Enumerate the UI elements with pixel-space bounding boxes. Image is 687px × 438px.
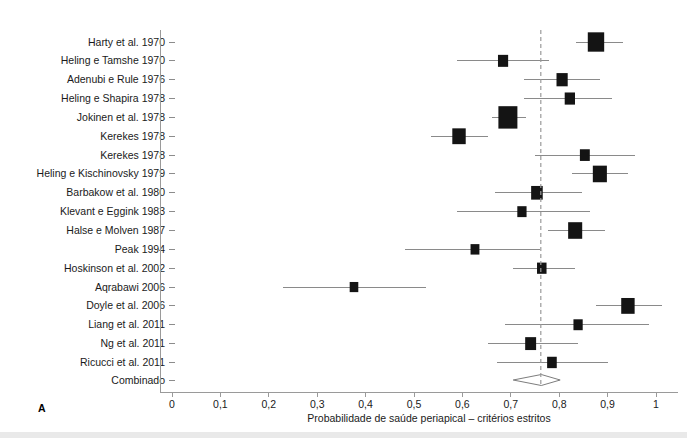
x-axis-tick-label: 0 (169, 398, 175, 410)
study-label: Klevant e Eggink 1983 (60, 205, 165, 217)
effect-estimate-marker (573, 319, 582, 330)
x-axis-tick-label: 0,4 (358, 398, 373, 410)
x-axis-tick-label: 0,6 (455, 398, 470, 410)
x-axis-title: Probabilidade de saúde periapical – crit… (307, 412, 550, 424)
study-label: Hoskinson et al. 2002 (64, 262, 165, 274)
study-label: Doyle et al. 2006 (86, 299, 165, 311)
forest-row: Peak 1994 (115, 243, 540, 255)
forest-row: Heling e Tamshe 1970 (61, 54, 549, 66)
study-label: Jokinen et al. 1978 (77, 111, 165, 123)
forest-row: Kerekes 1978 (100, 128, 488, 144)
effect-estimate-marker (452, 128, 465, 144)
x-axis-tick-label: 0,1 (213, 398, 228, 410)
effect-estimate-marker (568, 222, 582, 239)
effect-estimate-marker (350, 282, 359, 292)
study-label: Adenubi e Rule 1976 (67, 73, 165, 85)
forest-row: Ricucci et al. 2011 (80, 356, 608, 368)
forest-row: Doyle et al. 2006 (86, 298, 662, 314)
summary-row-group: Combinado (111, 374, 560, 386)
effect-estimate-marker (588, 32, 604, 51)
forest-row: Adenubi e Rule 1976 (67, 73, 600, 86)
x-axis-tick-label: 0,2 (261, 398, 276, 410)
study-rows-group: Harty et al. 1970Heling e Tamshe 1970Ade… (37, 32, 662, 368)
effect-estimate-marker (471, 244, 480, 254)
forest-row: Klevant e Eggink 1983 (60, 205, 590, 217)
study-label: Heling e Shapira 1978 (61, 92, 165, 104)
study-label: Kerekes 1978 (100, 149, 165, 161)
effect-estimate-marker (557, 73, 568, 86)
study-label: Heling e Tamshe 1970 (61, 54, 165, 66)
forest-plot-figure: Harty et al. 1970Heling e Tamshe 1970Ade… (0, 0, 687, 438)
effect-estimate-marker (593, 166, 607, 183)
forest-plot-canvas: Harty et al. 1970Heling e Tamshe 1970Ade… (0, 0, 687, 438)
bottom-divider (0, 432, 687, 438)
forest-row: Halse e Molven 1987 (66, 222, 605, 239)
effect-estimate-marker (547, 357, 557, 368)
forest-row: Heling e Shapira 1978 (61, 92, 612, 105)
forest-row: Harty et al. 1970 (88, 32, 623, 51)
study-label: Liang et al. 2011 (88, 318, 165, 330)
study-label: Ricucci et al. 2011 (80, 356, 165, 368)
forest-row: Liang et al. 2011 (88, 318, 649, 330)
x-axis-tick-label: 0,3 (310, 398, 325, 410)
study-label: Barbakow et al. 1980 (66, 186, 165, 198)
effect-estimate-marker (580, 149, 590, 161)
study-label: Harty et al. 1970 (88, 36, 165, 48)
forest-row: Heling e Kischinovsky 1979 (37, 166, 628, 183)
study-label: Peak 1994 (115, 243, 165, 255)
x-axis-tick-label: 1 (653, 398, 659, 410)
effect-estimate-marker (621, 298, 634, 314)
forest-row: Jokinen et al. 1978 (77, 106, 526, 128)
x-axis-tick-label: 0,7 (503, 398, 518, 410)
forest-row: Barbakow et al. 1980 (66, 186, 582, 200)
study-label: Aqrabawi 2006 (95, 281, 165, 293)
study-label: Heling e Kischinovsky 1979 (37, 167, 166, 179)
forest-row: Kerekes 1978 (100, 149, 635, 161)
summary-diamond (513, 375, 560, 386)
study-label: Kerekes 1978 (100, 130, 165, 142)
effect-estimate-marker (498, 106, 517, 128)
effect-estimate-marker (537, 263, 547, 274)
x-axis-tick-label: 0,9 (600, 398, 615, 410)
effect-estimate-marker (525, 337, 536, 350)
forest-row: Aqrabawi 2006 (95, 281, 426, 293)
study-label: Halse e Molven 1987 (66, 224, 165, 236)
x-axis-group: 00,10,20,30,40,50,60,70,80,91 (160, 30, 678, 410)
forest-row: Hoskinson et al. 2002 (64, 262, 575, 274)
effect-estimate-marker (565, 92, 575, 104)
x-axis-tick-label: 0,8 (552, 398, 567, 410)
effect-estimate-marker (498, 55, 508, 67)
effect-estimate-marker (517, 206, 526, 217)
panel-letter: A (38, 402, 46, 414)
x-axis-tick-label: 0,5 (407, 398, 422, 410)
study-label: Ng et al. 2011 (100, 337, 165, 349)
forest-row: Ng et al. 2011 (100, 337, 578, 350)
summary-label: Combinado (111, 374, 165, 386)
